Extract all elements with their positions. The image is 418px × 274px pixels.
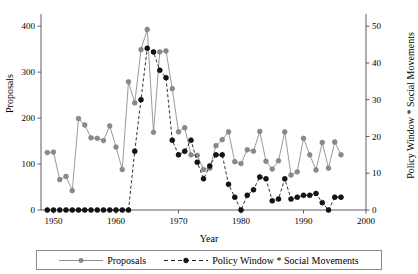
data-point-policy-window bbox=[307, 193, 312, 198]
data-point-policy-window bbox=[82, 208, 87, 213]
legend-label-proposals: Proposals bbox=[107, 255, 146, 266]
data-point-proposals bbox=[232, 159, 237, 164]
data-point-policy-window bbox=[76, 208, 81, 213]
data-point-policy-window bbox=[201, 176, 206, 181]
data-point-proposals bbox=[320, 140, 325, 145]
data-point-proposals bbox=[126, 79, 131, 84]
data-point-proposals bbox=[201, 167, 206, 172]
data-point-policy-window bbox=[220, 152, 225, 157]
data-point-policy-window bbox=[57, 208, 62, 213]
y-axis-left-tick-label: 300 bbox=[22, 67, 36, 77]
data-point-policy-window bbox=[332, 195, 337, 200]
data-point-proposals bbox=[289, 173, 294, 178]
y-axis-right-tick-label: 20 bbox=[372, 132, 382, 142]
legend-item-policy-window: Policy Window * Social Movements bbox=[164, 255, 359, 266]
data-point-policy-window bbox=[264, 176, 269, 181]
data-point-proposals bbox=[45, 150, 50, 155]
y-axis-left-title: Proposals bbox=[4, 61, 15, 127]
x-axis-tick-label: 2000 bbox=[357, 216, 376, 226]
y-axis-right-tick-label: 10 bbox=[372, 168, 382, 178]
data-point-policy-window bbox=[301, 193, 306, 198]
data-point-policy-window bbox=[295, 195, 300, 200]
data-point-policy-window bbox=[164, 75, 169, 80]
x-axis-tick-label: 1980 bbox=[232, 216, 251, 226]
data-point-policy-window bbox=[195, 160, 200, 165]
data-point-proposals bbox=[64, 174, 69, 179]
data-point-proposals bbox=[276, 158, 281, 163]
data-point-policy-window bbox=[157, 68, 162, 73]
x-axis-tick-label: 1960 bbox=[107, 216, 126, 226]
y-axis-left-tick-label: 100 bbox=[22, 159, 36, 169]
data-point-proposals bbox=[270, 167, 275, 172]
x-axis-title: Year bbox=[0, 233, 418, 244]
data-point-policy-window bbox=[226, 182, 231, 187]
data-point-proposals bbox=[332, 140, 337, 145]
series-group bbox=[45, 27, 344, 212]
data-point-proposals bbox=[170, 86, 175, 91]
data-point-policy-window bbox=[45, 208, 50, 213]
legend-swatch-policy-window bbox=[164, 256, 208, 265]
data-point-proposals bbox=[251, 149, 256, 154]
data-point-proposals bbox=[257, 129, 262, 134]
data-point-proposals bbox=[182, 125, 187, 130]
data-point-policy-window bbox=[276, 196, 281, 201]
data-point-proposals bbox=[107, 124, 112, 129]
data-point-proposals bbox=[101, 138, 106, 143]
data-point-proposals bbox=[89, 135, 94, 140]
data-point-proposals bbox=[176, 129, 181, 134]
data-point-policy-window bbox=[70, 208, 75, 213]
data-point-proposals bbox=[132, 101, 137, 106]
series-line-policy-window bbox=[47, 48, 341, 210]
data-point-proposals bbox=[82, 123, 87, 128]
data-point-policy-window bbox=[101, 208, 106, 213]
data-point-policy-window bbox=[339, 195, 344, 200]
data-point-proposals bbox=[51, 150, 56, 155]
data-point-proposals bbox=[220, 137, 225, 142]
data-point-policy-window bbox=[282, 176, 287, 181]
y-axis-right-title: Policy Window * Social Movements bbox=[405, 16, 416, 196]
data-point-proposals bbox=[314, 168, 319, 173]
x-axis-tick-label: 1990 bbox=[295, 216, 314, 226]
y-axis-left-tick-label: 200 bbox=[22, 113, 36, 123]
chart-legend: Proposals Policy Window * Social Movemen… bbox=[36, 250, 382, 270]
data-point-policy-window bbox=[176, 152, 181, 157]
y-axis-right-tick-label: 30 bbox=[372, 95, 382, 105]
data-point-proposals bbox=[70, 188, 75, 193]
y-axis-right-tick-label: 0 bbox=[372, 205, 377, 215]
data-point-proposals bbox=[245, 147, 250, 152]
data-point-proposals bbox=[120, 167, 125, 172]
data-point-policy-window bbox=[257, 174, 262, 179]
data-point-proposals bbox=[114, 145, 119, 150]
chart-figure: 0100200300400010203040501950196019701980… bbox=[0, 0, 418, 274]
data-point-policy-window bbox=[239, 208, 244, 213]
data-point-policy-window bbox=[207, 163, 212, 168]
series-line-proposals bbox=[47, 29, 341, 190]
data-point-policy-window bbox=[214, 152, 219, 157]
data-point-policy-window bbox=[320, 200, 325, 205]
data-point-policy-window bbox=[182, 149, 187, 154]
data-point-proposals bbox=[145, 27, 150, 32]
data-point-proposals bbox=[57, 177, 62, 182]
data-point-policy-window bbox=[189, 138, 194, 143]
data-point-proposals bbox=[295, 169, 300, 174]
y-axis-left-tick-label: 400 bbox=[22, 21, 36, 31]
data-point-policy-window bbox=[64, 208, 69, 213]
data-point-policy-window bbox=[126, 208, 131, 213]
data-point-proposals bbox=[214, 143, 219, 148]
data-point-policy-window bbox=[95, 208, 100, 213]
data-point-policy-window bbox=[114, 208, 119, 213]
y-axis-right-tick-label: 40 bbox=[372, 58, 382, 68]
legend-item-proposals: Proposals bbox=[59, 255, 146, 266]
y-axis-right-tick-label: 50 bbox=[372, 21, 382, 31]
data-point-policy-window bbox=[120, 208, 125, 213]
x-axis-tick-label: 1970 bbox=[170, 216, 189, 226]
data-point-proposals bbox=[307, 152, 312, 157]
data-point-policy-window bbox=[151, 49, 156, 54]
data-point-policy-window bbox=[232, 195, 237, 200]
data-point-policy-window bbox=[314, 191, 319, 196]
data-point-proposals bbox=[282, 129, 287, 134]
data-point-proposals bbox=[239, 161, 244, 166]
legend-label-policy-window: Policy Window * Social Movements bbox=[212, 255, 359, 266]
data-point-proposals bbox=[164, 49, 169, 54]
data-point-policy-window bbox=[89, 208, 94, 213]
